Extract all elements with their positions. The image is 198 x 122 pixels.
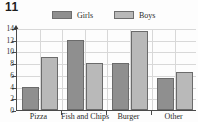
legend-label-boys: Boys — [139, 11, 155, 20]
bar-burger-boys — [131, 31, 148, 110]
bar-pizza-girls — [22, 87, 39, 110]
bar-fish-and-chips-girls — [67, 40, 84, 110]
legend-swatch-icon-boys — [114, 11, 134, 19]
gridline-vertical — [152, 29, 153, 110]
chart-figure: 11 Girls Boys 02468101214PizzaFish and C… — [0, 0, 198, 122]
legend-label-girls: Girls — [77, 11, 93, 20]
x-axis-label-burger: Burger — [106, 112, 151, 122]
legend-swatch-icon-girls — [52, 11, 72, 19]
legend-entry-boys: Boys — [114, 9, 155, 21]
bar-other-boys — [176, 72, 193, 110]
x-axis-label-pizza: Pizza — [16, 112, 61, 122]
y-axis-tick-label: 0 — [0, 107, 14, 115]
plot-inner — [17, 29, 196, 110]
bar-other-girls — [157, 78, 174, 110]
bar-pizza-boys — [41, 57, 58, 110]
y-axis-tick-label: 8 — [0, 60, 14, 68]
gridline-vertical — [62, 29, 63, 110]
bar-burger-girls — [112, 63, 129, 110]
x-axis-label-other: Other — [151, 112, 196, 122]
chart-legend: Girls Boys — [52, 9, 182, 21]
gridline-vertical — [107, 29, 108, 110]
legend-entry-girls: Girls — [52, 9, 93, 21]
x-axis-label-fish-and-chips: Fish and Chips — [61, 112, 106, 122]
y-axis-tick-label: 10 — [0, 48, 14, 56]
y-axis-tick-label: 14 — [0, 25, 14, 33]
y-axis-tick-label: 4 — [0, 84, 14, 92]
y-axis-tick-label: 6 — [0, 72, 14, 80]
plot-area — [16, 29, 196, 111]
bar-fish-and-chips-boys — [86, 63, 103, 110]
question-number: 11 — [5, 0, 19, 14]
y-axis-tick-label: 2 — [0, 95, 14, 103]
y-axis-tick-label: 12 — [0, 37, 14, 45]
